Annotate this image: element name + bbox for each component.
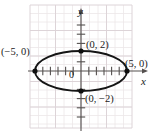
y-axis [77, 8, 85, 131]
point-left-vertex [32, 68, 37, 73]
point-top-vertex [78, 48, 83, 53]
origin-label: 0 [69, 70, 74, 80]
x-axis-label: x [141, 76, 146, 87]
label-left-vertex: (−5, 0) [1, 47, 30, 58]
label-right-vertex: (5, 0) [125, 59, 148, 70]
point-bottom-vertex [78, 88, 83, 93]
label-bottom-vertex: (0, −2) [85, 94, 114, 105]
y-axis-label: y [78, 6, 83, 17]
ellipse-graph-figure: y x 0 (−5, 0) (5, 0) (0, 2) (0, −2) [0, 0, 153, 133]
label-top-vertex: (0, 2) [86, 40, 109, 51]
